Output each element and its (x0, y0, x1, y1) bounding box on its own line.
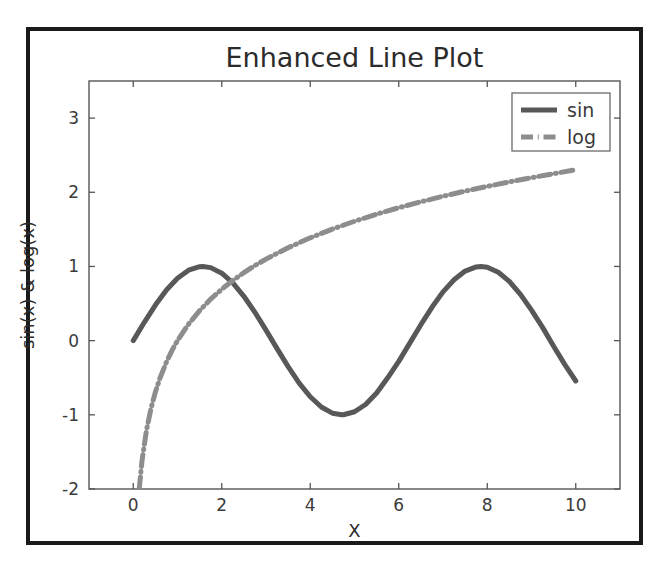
y-tick-label--1: -1 (62, 405, 79, 425)
x-tick-label-10: 10 (565, 495, 587, 515)
y-axis-title: sin(x) & log(x) (17, 221, 38, 349)
y-tick-label-2: 2 (68, 182, 79, 202)
x-tick-label-4: 4 (305, 495, 316, 515)
x-tick-label-0: 0 (128, 495, 139, 515)
legend-label-log: log (567, 126, 596, 148)
series-line-sin (133, 266, 576, 414)
line-chart: 0246810-2-10123Xsin(x) & log(x)Enhanced … (0, 0, 669, 579)
figure-root: 0246810-2-10123Xsin(x) & log(x)Enhanced … (0, 0, 669, 579)
y-tick-label-0: 0 (68, 331, 79, 351)
series-line-log (139, 170, 576, 489)
x-axis-title: X (348, 520, 360, 541)
y-tick-label-3: 3 (68, 108, 79, 128)
x-tick-label-2: 2 (216, 495, 227, 515)
chart-title: Enhanced Line Plot (226, 42, 484, 73)
x-tick-label-8: 8 (482, 495, 493, 515)
y-tick-label-1: 1 (68, 256, 79, 276)
x-tick-label-6: 6 (393, 495, 404, 515)
legend-label-sin: sin (567, 99, 594, 121)
y-tick-label--2: -2 (62, 479, 79, 499)
